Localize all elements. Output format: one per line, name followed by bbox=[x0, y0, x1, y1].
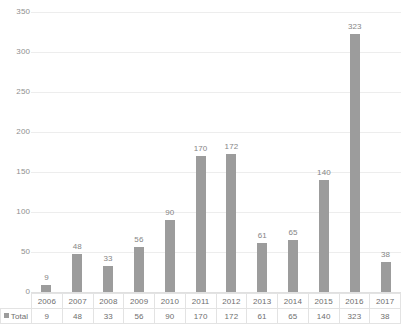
bar-2006[interactable] bbox=[41, 285, 51, 292]
table-cell-2011: 170 bbox=[185, 309, 216, 324]
legend-swatch-icon bbox=[4, 313, 9, 318]
bar-slot-2015: 140 bbox=[309, 12, 340, 292]
plot-area: 350 300 250 200 150 100 50 0 94833569017… bbox=[0, 0, 409, 296]
bar-value-label-2007: 48 bbox=[73, 243, 82, 251]
legend-label-total: Total bbox=[11, 312, 28, 321]
legend-entry-total: Total bbox=[1, 309, 32, 324]
y-tick-label-100: 100 bbox=[4, 208, 30, 216]
bar-value-label-2012: 172 bbox=[225, 143, 239, 151]
table-cell-2007: 48 bbox=[62, 309, 93, 324]
table-corner-cell bbox=[1, 294, 32, 309]
table-header-2016: 2016 bbox=[339, 294, 370, 309]
table-cell-2014: 65 bbox=[278, 309, 309, 324]
bar-2011[interactable] bbox=[196, 156, 206, 292]
table-header-2009: 2009 bbox=[124, 294, 155, 309]
table-header-2015: 2015 bbox=[308, 294, 339, 309]
bar-2016[interactable] bbox=[350, 34, 360, 292]
bar-chart-figure: 350 300 250 200 150 100 50 0 94833569017… bbox=[0, 0, 409, 330]
bar-2012[interactable] bbox=[226, 154, 236, 292]
y-axis: 350 300 250 200 150 100 50 0 bbox=[0, 0, 30, 296]
bar-slot-2014: 65 bbox=[278, 12, 309, 292]
table-header-2007: 2007 bbox=[62, 294, 93, 309]
bar-value-label-2008: 33 bbox=[104, 255, 113, 263]
y-tick-label-300: 300 bbox=[4, 48, 30, 56]
table-header-2010: 2010 bbox=[155, 294, 186, 309]
bar-value-label-2013: 61 bbox=[258, 232, 267, 240]
bar-2015[interactable] bbox=[319, 180, 329, 292]
table-row-total: Total 9 48 33 56 90 170 172 61 65 140 32… bbox=[1, 309, 401, 324]
bar-2013[interactable] bbox=[257, 243, 267, 292]
table-cell-2006: 9 bbox=[32, 309, 63, 324]
table-cell-2009: 56 bbox=[124, 309, 155, 324]
table-row-categories: 2006 2007 2008 2009 2010 2011 2012 2013 … bbox=[1, 294, 401, 309]
table-header-2012: 2012 bbox=[216, 294, 247, 309]
bar-slot-2010: 90 bbox=[154, 12, 185, 292]
table-header-2011: 2011 bbox=[185, 294, 216, 309]
table-header-2008: 2008 bbox=[93, 294, 124, 309]
bar-slot-2006: 9 bbox=[31, 12, 62, 292]
table-header-2014: 2014 bbox=[278, 294, 309, 309]
y-tick-label-250: 250 bbox=[4, 88, 30, 96]
bar-slot-2008: 33 bbox=[93, 12, 124, 292]
bar-slot-2009: 56 bbox=[124, 12, 155, 292]
y-tick-label-350: 350 bbox=[4, 8, 30, 16]
bar-value-label-2009: 56 bbox=[134, 236, 143, 244]
table-header-2013: 2013 bbox=[247, 294, 278, 309]
bar-value-label-2017: 38 bbox=[381, 251, 390, 259]
bar-slot-2013: 61 bbox=[247, 12, 278, 292]
bar-value-label-2010: 90 bbox=[165, 209, 174, 217]
table-cell-2016: 323 bbox=[339, 309, 370, 324]
bar-slot-2016: 323 bbox=[339, 12, 370, 292]
bar-2010[interactable] bbox=[165, 220, 175, 292]
table-header-2017: 2017 bbox=[370, 294, 401, 309]
table-cell-2008: 33 bbox=[93, 309, 124, 324]
bar-slot-2011: 170 bbox=[185, 12, 216, 292]
table-cell-2017: 38 bbox=[370, 309, 401, 324]
bar-value-label-2014: 65 bbox=[289, 229, 298, 237]
bar-value-label-2016: 323 bbox=[348, 23, 362, 31]
bar-2014[interactable] bbox=[288, 240, 298, 292]
bar-slot-2012: 172 bbox=[216, 12, 247, 292]
table-cell-2015: 140 bbox=[308, 309, 339, 324]
chart-data-table: 2006 2007 2008 2009 2010 2011 2012 2013 … bbox=[0, 293, 401, 324]
y-tick-label-50: 50 bbox=[4, 248, 30, 256]
bar-2017[interactable] bbox=[381, 262, 391, 292]
bar-slot-2007: 48 bbox=[62, 12, 93, 292]
bar-value-label-2011: 170 bbox=[194, 145, 208, 153]
y-tick-label-150: 150 bbox=[4, 168, 30, 176]
table-cell-2013: 61 bbox=[247, 309, 278, 324]
bar-slot-2017: 38 bbox=[370, 12, 401, 292]
bar-2008[interactable] bbox=[103, 266, 113, 292]
table-cell-2012: 172 bbox=[216, 309, 247, 324]
table-cell-2010: 90 bbox=[155, 309, 186, 324]
bar-2009[interactable] bbox=[134, 247, 144, 292]
y-tick-label-200: 200 bbox=[4, 128, 30, 136]
bar-value-label-2006: 9 bbox=[44, 274, 49, 282]
bar-2007[interactable] bbox=[72, 254, 82, 292]
bars-layer: 948335690170172616514032338 bbox=[31, 0, 401, 296]
table-header-2006: 2006 bbox=[32, 294, 63, 309]
bar-value-label-2015: 140 bbox=[317, 169, 331, 177]
